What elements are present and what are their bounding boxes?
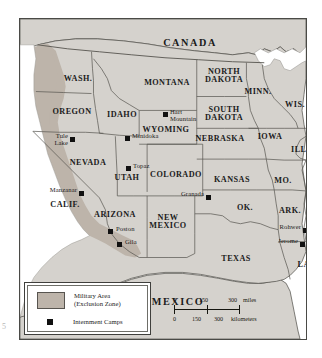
legend-row-exclusion-zone: Military Area (Exclusion Zone) bbox=[37, 292, 121, 309]
map-scale-bar: 0 150 300 miles 0 150 300 kilometers bbox=[173, 297, 273, 331]
scale-miles-tick-150: 150 bbox=[199, 297, 208, 303]
camp-marker-tule-lake bbox=[70, 137, 75, 142]
scale-tick-middle bbox=[207, 305, 208, 314]
legend-row-internment-camps: Internment Camps bbox=[47, 318, 123, 326]
scale-km-tick-0: 0 bbox=[173, 316, 176, 322]
camp-marker-hart-mountain bbox=[163, 112, 168, 117]
legend-internment-camps-label: Internment Camps bbox=[73, 318, 123, 326]
legend-exclusion-zone-label: Military Area (Exclusion Zone) bbox=[74, 292, 121, 308]
scale-km-unit: kilometers bbox=[231, 316, 257, 322]
camp-marker-rohwer bbox=[303, 228, 307, 233]
scale-miles-tick-0: 0 bbox=[173, 297, 176, 303]
camp-marker-granada bbox=[206, 195, 211, 200]
scale-tick-right bbox=[239, 305, 240, 314]
scale-miles-tick-300: 300 bbox=[228, 297, 237, 303]
map-frame: CANADA MEXICO WASH.OREGONIDAHOMONTANANOR… bbox=[19, 18, 307, 340]
exclusion-zone-swatch bbox=[37, 292, 65, 309]
camp-marker-topaz bbox=[126, 166, 131, 171]
camp-marker-jerome bbox=[300, 242, 305, 247]
scale-km-tick-300: 300 bbox=[214, 316, 223, 322]
scale-km-tick-150: 150 bbox=[192, 316, 201, 322]
camp-marker-gila bbox=[117, 242, 122, 247]
camp-marker-minidoka bbox=[125, 136, 130, 141]
internment-camp-swatch bbox=[47, 319, 53, 325]
scale-tick-left bbox=[174, 305, 175, 314]
page-edge-mark: 5 bbox=[2, 322, 9, 332]
camp-marker-poston bbox=[108, 229, 113, 234]
map-legend: Military Area (Exclusion Zone) Internmen… bbox=[24, 282, 151, 335]
scale-miles-unit: miles bbox=[243, 297, 256, 303]
camp-marker-manzanar bbox=[79, 191, 84, 196]
